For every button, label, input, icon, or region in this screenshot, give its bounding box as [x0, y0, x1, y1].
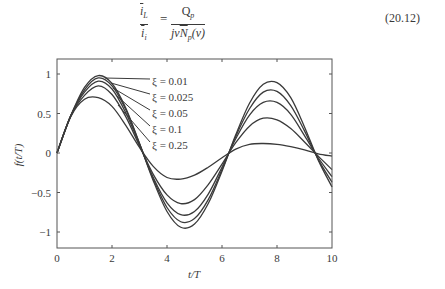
legend-label: ξ = 0.05: [152, 107, 188, 120]
legend-label: ξ = 0.025: [152, 91, 194, 104]
legend-label: ξ = 0.25: [152, 139, 188, 152]
curve-0.01: [57, 75, 332, 228]
x-tick-label: 0: [54, 252, 60, 264]
damping-response-chart: 0246810 10.50−0.5−1 ξ = 0.01ξ = 0.025ξ =…: [0, 0, 445, 289]
legend-leader-line: [105, 78, 150, 79]
curve-0.25: [57, 97, 332, 179]
y-axis-label: f(t/T): [12, 143, 25, 166]
plot-frame: [57, 59, 332, 248]
y-tick-label: 0: [46, 147, 52, 159]
response-curves: [57, 75, 332, 228]
legend-leader-line: [118, 105, 150, 142]
y-tick-label: 0.5: [37, 108, 51, 120]
x-tick-label: 2: [109, 252, 115, 264]
legend-label: ξ = 0.1: [152, 123, 182, 136]
x-tick-label: 6: [219, 252, 225, 264]
x-tick-label: 8: [274, 252, 280, 264]
x-tick-label: 4: [164, 252, 170, 264]
curve-0.05: [57, 81, 332, 215]
x-tick-label: 10: [327, 252, 339, 264]
legend-label: ξ = 0.01: [152, 75, 188, 88]
x-axis-label: t/T: [188, 268, 201, 280]
y-tick-label: −1: [39, 226, 51, 238]
y-tick-label: −0.5: [31, 187, 51, 199]
curve-0.025: [57, 78, 332, 223]
curve-0.1: [57, 86, 332, 204]
x-axis-ticks: 0246810: [54, 59, 338, 264]
y-tick-label: 1: [46, 68, 52, 80]
